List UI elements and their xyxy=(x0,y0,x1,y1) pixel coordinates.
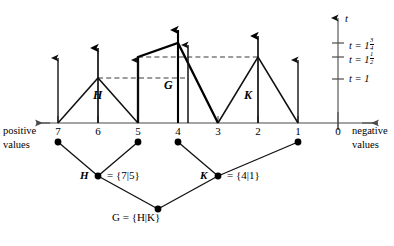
tree-label-H: H xyxy=(80,170,89,181)
up-arrows xyxy=(58,30,298,123)
t-axis-label: t xyxy=(345,14,348,25)
t-tick-2-den: 2 xyxy=(370,59,374,66)
axis-tick-label-6: 6 xyxy=(91,126,105,137)
t-tick-label-1: t = 1 xyxy=(349,74,370,85)
tent-label-G: G xyxy=(164,79,173,91)
tree-leaf-1 xyxy=(295,139,302,146)
edge-7-to-H xyxy=(58,142,98,176)
horizontal-axis xyxy=(36,112,378,130)
tree-leaf-4 xyxy=(175,139,182,146)
figure-canvas: 7 6 5 4 3 2 1 0 positive values negative… xyxy=(0,0,394,246)
negative-values-label-line1: negative xyxy=(352,126,388,137)
tree-node-K xyxy=(215,173,222,180)
t-tick-label-1-half: t = 112 xyxy=(349,51,374,66)
positive-values-label-line2: values xyxy=(3,140,30,151)
tree-label-K: K xyxy=(200,170,207,181)
t-tick-3-whole: 1 xyxy=(364,73,369,84)
tree-equation-G: G = {H|K} xyxy=(112,212,160,223)
negative-values-label-line2: values xyxy=(352,140,379,151)
axis-tick-label-7: 7 xyxy=(51,126,65,137)
tree-nodes xyxy=(55,139,302,213)
axis-tick-label-2: 2 xyxy=(251,126,265,137)
tent-diagram-svg xyxy=(0,0,394,246)
edge-4-to-K xyxy=(178,142,218,176)
axis-tick-label-3: 3 xyxy=(211,126,225,137)
tree-leaf-5 xyxy=(135,139,142,146)
t-axis xyxy=(332,18,344,130)
tree-leaf-7 xyxy=(55,139,62,146)
edge-K-to-G xyxy=(158,176,218,209)
tree-edges xyxy=(58,142,298,209)
axis-tick-label-4: 4 xyxy=(171,126,185,137)
tent-label-K: K xyxy=(244,89,252,101)
positive-values-label-line1: positive xyxy=(3,126,36,137)
tree-node-H xyxy=(95,173,102,180)
tent-label-H: H xyxy=(93,89,102,101)
tree-equation-H: = {7|5} xyxy=(107,170,140,181)
axis-tick-label-5: 5 xyxy=(131,126,145,137)
axis-tick-label-1: 1 xyxy=(291,126,305,137)
tree-equation-K: = {4|1} xyxy=(227,170,260,181)
axis-tick-label-0: 0 xyxy=(331,126,345,137)
